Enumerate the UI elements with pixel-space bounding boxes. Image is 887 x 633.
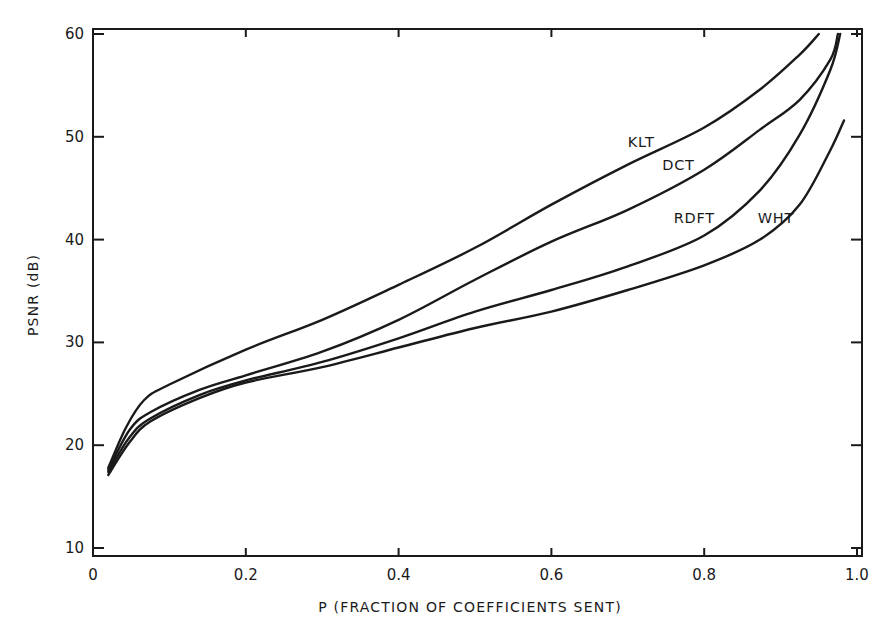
x-tick-labels: 00.20.40.60.81.0 [88, 566, 869, 584]
axis-ticks [93, 29, 862, 556]
y-axis-title: PSNR (dB) [25, 254, 41, 336]
y-tick-label: 60 [65, 25, 84, 43]
label-rdft: RDFT [674, 210, 715, 226]
curve-dct [108, 34, 838, 470]
x-axis-title: P (FRACTION OF COEFFICIENTS SENT) [318, 599, 622, 615]
x-tick-label: 0.2 [234, 566, 258, 584]
y-tick-label: 10 [65, 539, 84, 557]
curve-wht [108, 120, 844, 475]
curve-rdft [108, 34, 840, 472]
x-tick-label: 0.4 [387, 566, 411, 584]
psnr-chart: 00.20.40.60.81.0 102030405060 KLTDCTRDFT… [0, 0, 887, 633]
x-tick-label: 0.8 [692, 566, 716, 584]
label-klt: KLT [628, 134, 655, 150]
y-tick-label: 20 [65, 436, 84, 454]
label-dct: DCT [662, 157, 695, 173]
plot-frame [93, 29, 862, 556]
x-tick-label: 0.6 [539, 566, 563, 584]
y-tick-label: 30 [65, 333, 84, 351]
x-tick-label: 0 [88, 566, 98, 584]
y-tick-labels: 102030405060 [65, 25, 84, 557]
label-wht: WHT [758, 210, 795, 226]
y-tick-label: 50 [65, 128, 84, 146]
y-tick-label: 40 [65, 231, 84, 249]
series-curves [108, 34, 844, 475]
x-tick-label: 1.0 [845, 566, 869, 584]
curve-klt [108, 34, 819, 468]
